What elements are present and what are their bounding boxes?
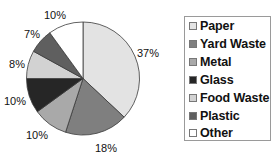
pie-label: 10% [44, 9, 66, 21]
legend-item-metal: Metal [189, 54, 231, 70]
legend-swatch [189, 76, 197, 84]
pie-label: 8% [9, 58, 25, 70]
pie-label: 10% [26, 129, 48, 141]
legend-label: Yard Waste [200, 37, 266, 51]
legend-swatch [189, 22, 197, 30]
pie-slices [27, 22, 140, 135]
legend-label: Food Waste [200, 91, 269, 105]
legend-label: Glass [200, 73, 234, 87]
legend-swatch [189, 40, 197, 48]
legend-item-food-waste: Food Waste [189, 90, 269, 106]
legend-label: Plastic [200, 109, 240, 123]
legend-label: Metal [200, 55, 231, 69]
chart-legend: Paper Yard Waste Metal Glass Food Waste … [184, 16, 271, 141]
legend-item-paper: Paper [189, 18, 234, 34]
legend-item-other: Other [189, 125, 233, 141]
pie-label: 37% [137, 47, 159, 59]
pie-label: 7% [24, 28, 40, 40]
legend-item-glass: Glass [189, 72, 234, 88]
pie-chart: 37%18%10%10%8%7%10% [0, 0, 180, 155]
pie-label: 18% [95, 142, 117, 154]
legend-label: Other [200, 126, 233, 140]
legend-label: Paper [200, 19, 234, 33]
legend-swatch [189, 58, 197, 66]
pie-label: 10% [4, 95, 26, 107]
legend-swatch [189, 112, 197, 120]
legend-item-yard-waste: Yard Waste [189, 36, 266, 52]
legend-swatch [189, 129, 197, 137]
legend-item-plastic: Plastic [189, 108, 240, 124]
legend-swatch [189, 94, 197, 102]
